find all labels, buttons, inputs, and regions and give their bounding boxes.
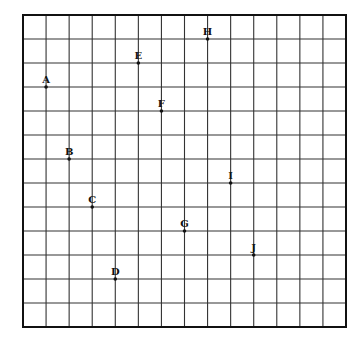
point-dot — [90, 205, 94, 209]
point-label: A — [41, 74, 50, 85]
point-label: E — [135, 50, 143, 61]
point-label: H — [203, 26, 212, 37]
point-dot — [113, 277, 117, 281]
point-label: F — [158, 98, 165, 109]
coordinate-grid-diagram: ABCDEFGHIJ — [0, 0, 360, 342]
point-dot — [44, 85, 48, 89]
grid-points: ABCDEFGHIJ — [41, 26, 256, 281]
point-dot — [67, 157, 71, 161]
point-label: D — [111, 266, 120, 277]
point-label: G — [180, 218, 189, 229]
grid-canvas: ABCDEFGHIJ — [0, 0, 360, 342]
point-dot — [252, 253, 256, 257]
grid-lines — [23, 15, 346, 327]
point-dot — [137, 61, 141, 65]
point-dot — [160, 109, 164, 113]
point-label: B — [65, 146, 73, 157]
point-dot — [229, 181, 233, 185]
point-label: C — [88, 194, 96, 205]
point-label: J — [250, 242, 256, 253]
point-dot — [183, 229, 187, 233]
point-label: I — [228, 170, 233, 181]
point-dot — [206, 37, 210, 41]
